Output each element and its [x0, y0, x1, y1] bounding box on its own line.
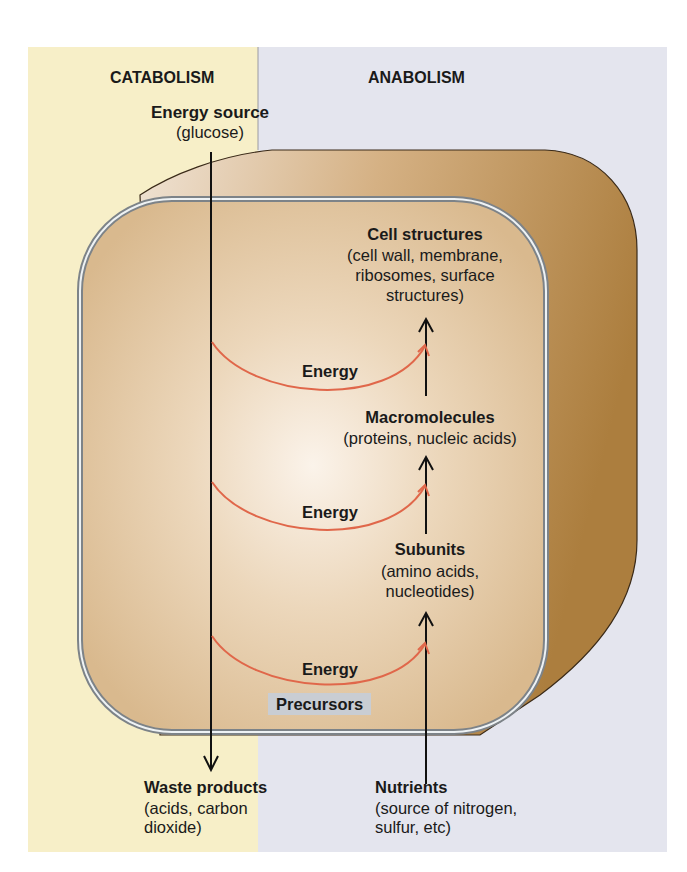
metabolism-diagram: CATABOLISM ANABOLISM Energy source (gluc… — [0, 0, 687, 872]
waste-products-title: Waste products — [144, 778, 344, 796]
nutrients-title: Nutrients — [375, 778, 575, 796]
waste-products-detail-2: dioxide) — [144, 818, 344, 836]
waste-products-detail-1: (acids, carbon — [144, 799, 344, 817]
precursors-label: Precursors — [268, 693, 371, 715]
cell-structures-title: Cell structures — [320, 225, 530, 243]
energy-source-title: Energy source — [120, 104, 300, 122]
energy-label-3: Energy — [280, 660, 380, 678]
catabolism-header: CATABOLISM — [110, 69, 310, 87]
anabolism-header: ANABOLISM — [368, 69, 568, 87]
energy-label-1: Energy — [280, 362, 380, 380]
nutrients-detail-2: sulfur, etc) — [375, 818, 575, 836]
nutrients-detail-1: (source of nitrogen, — [375, 799, 575, 817]
cell-structures-detail-3: structures) — [310, 286, 540, 304]
cell-structures-detail-2: ribosomes, surface — [310, 266, 540, 284]
cell-structures-detail-1: (cell wall, membrane, — [310, 246, 540, 264]
energy-label-2: Energy — [280, 503, 380, 521]
macromolecules-detail: (proteins, nucleic acids) — [310, 429, 550, 447]
subunits-detail-2: nucleotides) — [350, 582, 510, 600]
energy-source-detail: (glucose) — [120, 123, 300, 141]
subunits-detail-1: (amino acids, — [350, 562, 510, 580]
macromolecules-title: Macromolecules — [330, 408, 530, 426]
subunits-title: Subunits — [360, 540, 500, 558]
